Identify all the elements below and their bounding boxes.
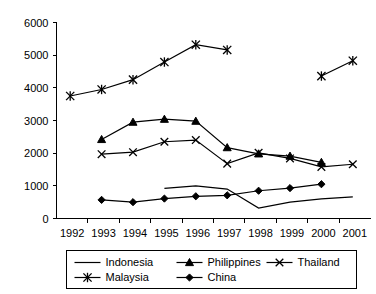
legend-label: Philippines: [208, 256, 262, 268]
x-tick-label: 1993: [91, 227, 115, 239]
x-tick-label: 2000: [311, 227, 335, 239]
x-tick-label: 1999: [280, 227, 304, 239]
legend-label: China: [208, 271, 238, 283]
line-chart: 0100020003000400050006000 19921993199419…: [0, 0, 376, 294]
x-tick-label: 1992: [60, 227, 84, 239]
x-tick-label: 1998: [248, 227, 272, 239]
legend-label: Thailand: [298, 256, 340, 268]
y-tick-label: 2000: [24, 147, 48, 159]
x-tick-label: 1994: [123, 227, 147, 239]
x-tick-label: 1996: [186, 227, 210, 239]
y-tick-label: 4000: [24, 82, 48, 94]
y-tick-label: 3000: [24, 115, 48, 127]
legend-label: Malaysia: [106, 271, 150, 283]
y-tick-label: 5000: [24, 49, 48, 61]
y-tick-label: 0: [42, 213, 48, 225]
x-tick-label: 2001: [343, 227, 367, 239]
legend-label: Indonesia: [106, 256, 155, 268]
chart-canvas: 0100020003000400050006000 19921993199419…: [0, 0, 376, 294]
x-tick-label: 1997: [217, 227, 241, 239]
y-tick-label: 6000: [24, 17, 48, 29]
x-tick-label: 1995: [154, 227, 178, 239]
y-tick-label: 1000: [24, 180, 48, 192]
